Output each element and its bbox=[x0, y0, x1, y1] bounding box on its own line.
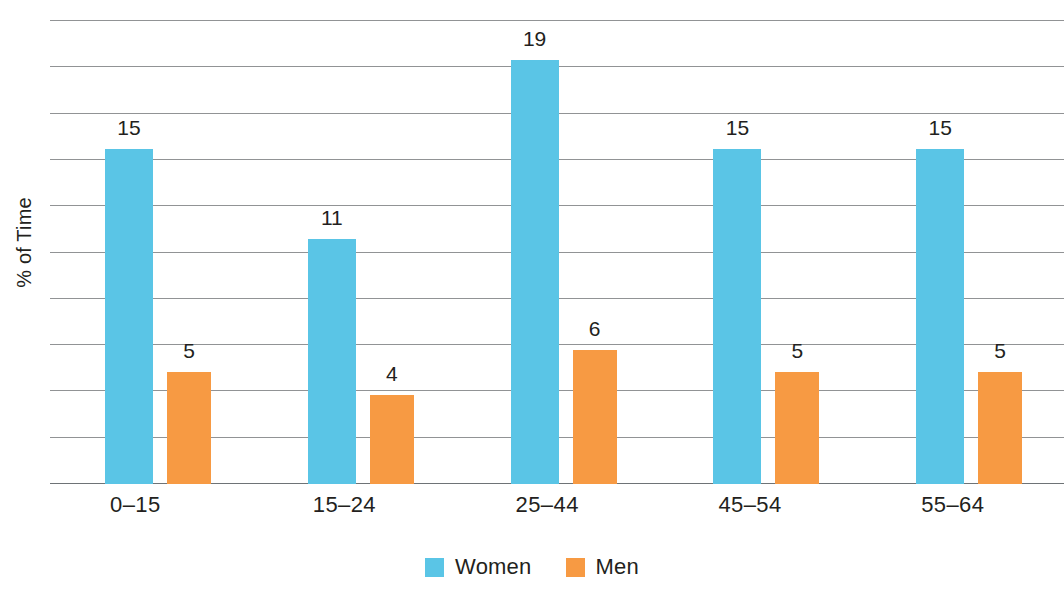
bar-groups: 155114196155155 bbox=[50, 20, 1064, 484]
bar-group: 114 bbox=[253, 20, 456, 484]
bar-men[interactable] bbox=[978, 372, 1022, 484]
bar-value-label: 5 bbox=[792, 339, 804, 363]
legend-item[interactable]: Women bbox=[425, 556, 531, 578]
bar-group: 155 bbox=[861, 20, 1064, 484]
bar-men[interactable] bbox=[167, 372, 211, 484]
legend-swatch-icon bbox=[566, 558, 585, 577]
bar-value-label: 11 bbox=[321, 206, 343, 230]
bar-women[interactable] bbox=[713, 149, 761, 484]
x-axis-label: 25–44 bbox=[456, 492, 659, 536]
legend-item[interactable]: Men bbox=[566, 556, 639, 578]
legend-label: Women bbox=[455, 556, 531, 578]
bar-group: 196 bbox=[456, 20, 659, 484]
bar-men[interactable] bbox=[370, 395, 414, 484]
bar-chart: % of Time 155114196155155 0–1515–2425–44… bbox=[0, 0, 1064, 598]
legend-swatch-icon bbox=[425, 558, 444, 577]
bar-men[interactable] bbox=[573, 350, 617, 484]
bar-women[interactable] bbox=[308, 239, 356, 484]
y-axis-title-text: % of Time bbox=[13, 197, 36, 288]
bar-value-label: 5 bbox=[183, 339, 195, 363]
x-axis-label: 0–15 bbox=[50, 492, 253, 536]
bar-women[interactable] bbox=[511, 60, 559, 484]
bar-women[interactable] bbox=[105, 149, 153, 484]
x-axis-label: 45–54 bbox=[658, 492, 861, 536]
bar-group: 155 bbox=[50, 20, 253, 484]
bar-value-label: 4 bbox=[386, 362, 398, 386]
bar-men[interactable] bbox=[775, 372, 819, 484]
legend-label: Men bbox=[596, 556, 639, 578]
chart-legend: WomenMen bbox=[0, 556, 1064, 578]
x-axis-labels: 0–1515–2425–4445–5455–64 bbox=[50, 492, 1064, 536]
plot-area: 155114196155155 bbox=[50, 20, 1064, 484]
bar-value-label: 15 bbox=[929, 116, 952, 140]
bar-women[interactable] bbox=[916, 149, 964, 484]
bar-value-label: 15 bbox=[117, 116, 140, 140]
x-axis-label: 55–64 bbox=[861, 492, 1064, 536]
bar-value-label: 19 bbox=[523, 27, 546, 51]
bar-value-label: 6 bbox=[589, 317, 601, 341]
y-axis-title: % of Time bbox=[0, 0, 48, 484]
x-axis-label: 15–24 bbox=[253, 492, 456, 536]
bar-group: 155 bbox=[658, 20, 861, 484]
bar-value-label: 5 bbox=[994, 339, 1006, 363]
bar-value-label: 15 bbox=[726, 116, 749, 140]
